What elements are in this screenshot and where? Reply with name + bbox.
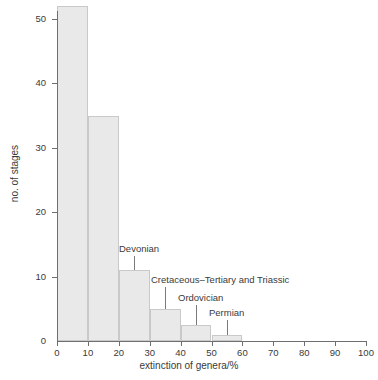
x-axis-tick	[366, 341, 367, 346]
x-axis-tick-label: 50	[197, 347, 227, 358]
y-axis-tick-label: 10	[24, 272, 46, 282]
x-axis-tick	[335, 341, 336, 346]
annotation-label: Cretaceous–Tertiary and Triassic	[151, 274, 289, 285]
y-axis-tick-label: 50	[24, 14, 46, 24]
x-axis-tick	[119, 341, 120, 346]
annotation-leader-line	[227, 320, 228, 335]
x-axis-tick-label: 30	[135, 347, 165, 358]
x-axis-tick	[150, 341, 151, 346]
x-axis-tick	[273, 341, 274, 346]
x-axis-tick	[242, 341, 243, 346]
annotation-label: Permian	[209, 307, 244, 318]
histogram-bar	[181, 325, 212, 341]
x-axis-tick	[181, 341, 182, 346]
y-axis-tick-label: 30	[24, 143, 46, 153]
x-axis-tick	[304, 341, 305, 346]
annotation-leader-line	[134, 256, 135, 270]
annotation-leader-line	[196, 305, 197, 325]
x-axis-tick-label: 60	[227, 347, 257, 358]
x-axis-tick-label: 10	[73, 347, 103, 358]
y-axis-tick-label: 40	[24, 78, 46, 88]
x-axis-tick-label: 0	[42, 347, 72, 358]
annotation-leader-line	[165, 287, 166, 309]
y-axis-tick	[52, 212, 57, 213]
plot-area	[57, 0, 366, 341]
y-axis-tick-label: 0	[24, 336, 46, 346]
annotation-label: Ordovician	[178, 292, 223, 303]
x-axis-tick-label: 40	[166, 347, 196, 358]
x-axis-tick-label: 80	[289, 347, 319, 358]
x-axis-tick-label: 70	[258, 347, 288, 358]
y-axis-tick	[52, 83, 57, 84]
x-axis-title: extinction of genera/%	[0, 360, 378, 371]
y-axis-tick	[52, 19, 57, 20]
x-axis-tick	[57, 341, 58, 346]
histogram-bar	[119, 270, 150, 341]
x-axis-tick	[88, 341, 89, 346]
y-axis-tick	[52, 277, 57, 278]
y-axis-tick-label: 20	[24, 207, 46, 217]
histogram-chart: 010203040506070809010001020304050 Devoni…	[0, 0, 378, 380]
histogram-bar	[57, 6, 88, 341]
x-axis-tick-label: 20	[104, 347, 134, 358]
histogram-bar	[88, 116, 119, 341]
annotation-label: Devonian	[119, 243, 159, 254]
histogram-bar	[150, 309, 181, 341]
x-axis-tick	[212, 341, 213, 346]
y-axis-tick	[52, 148, 57, 149]
x-axis-tick-label: 90	[320, 347, 350, 358]
y-axis-line	[57, 11, 58, 342]
y-axis-title: no. of stages	[9, 114, 20, 234]
x-axis-tick-label: 100	[351, 347, 378, 358]
